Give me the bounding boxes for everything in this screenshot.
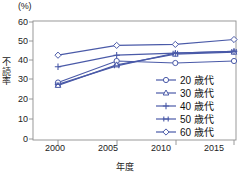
- legend-label-20: 20 歳代: [180, 75, 214, 86]
- y-tickmarks: [29, 22, 33, 139]
- x-tickmarks: [58, 140, 234, 145]
- chart-figure: (%) 不 読 率 60 50 40 30 20 10 0 2000 2005 …: [0, 0, 249, 178]
- legend-marker-30: [163, 90, 169, 95]
- plot-svg: 20 歳代 30 歳代 40 歳代 50 歳代 60 歳代: [0, 0, 249, 178]
- legend-label-60: 60 歳代: [180, 127, 214, 138]
- legend-marker-40: [163, 103, 169, 109]
- legend-label-40: 40 歳代: [180, 101, 214, 112]
- legend-marker-50: [163, 117, 169, 122]
- legend-label-50: 50 歳代: [180, 114, 214, 125]
- series-markers-60: [55, 36, 237, 58]
- legend-marker-20: [163, 77, 168, 82]
- legend-marker-60: [163, 129, 169, 135]
- legend-label-30: 30 歳代: [180, 88, 214, 99]
